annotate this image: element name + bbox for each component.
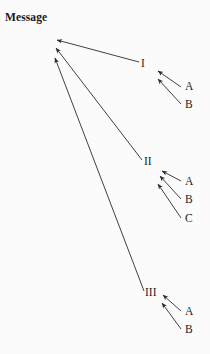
edge-ii-to-c xyxy=(158,184,181,218)
node-label-ii: II xyxy=(144,156,152,168)
edge-ii-to-a xyxy=(162,171,181,181)
node-label-iii: III xyxy=(145,287,157,299)
diagram-canvas: Message IABIIABCIIIAB xyxy=(0,0,210,354)
node-label-i: I xyxy=(141,58,145,70)
edge-group xyxy=(55,40,181,329)
leaf-label-iii-b: B xyxy=(185,324,193,336)
edge-root-to-ii xyxy=(56,48,142,160)
edge-root-to-i xyxy=(57,40,139,62)
edge-i-to-a xyxy=(158,71,181,87)
arrow-tree-graphic xyxy=(0,0,210,354)
leaf-label-ii-b: B xyxy=(185,194,193,206)
leaf-label-i-b: B xyxy=(185,99,193,111)
edge-root-to-iii xyxy=(55,58,144,291)
leaf-label-iii-a: A xyxy=(185,306,193,318)
leaf-label-i-a: A xyxy=(185,81,193,93)
leaf-label-ii-a: A xyxy=(185,176,193,188)
edge-iii-to-b xyxy=(162,303,181,329)
leaf-label-ii-c: C xyxy=(185,213,193,225)
edge-i-to-b xyxy=(158,79,181,104)
